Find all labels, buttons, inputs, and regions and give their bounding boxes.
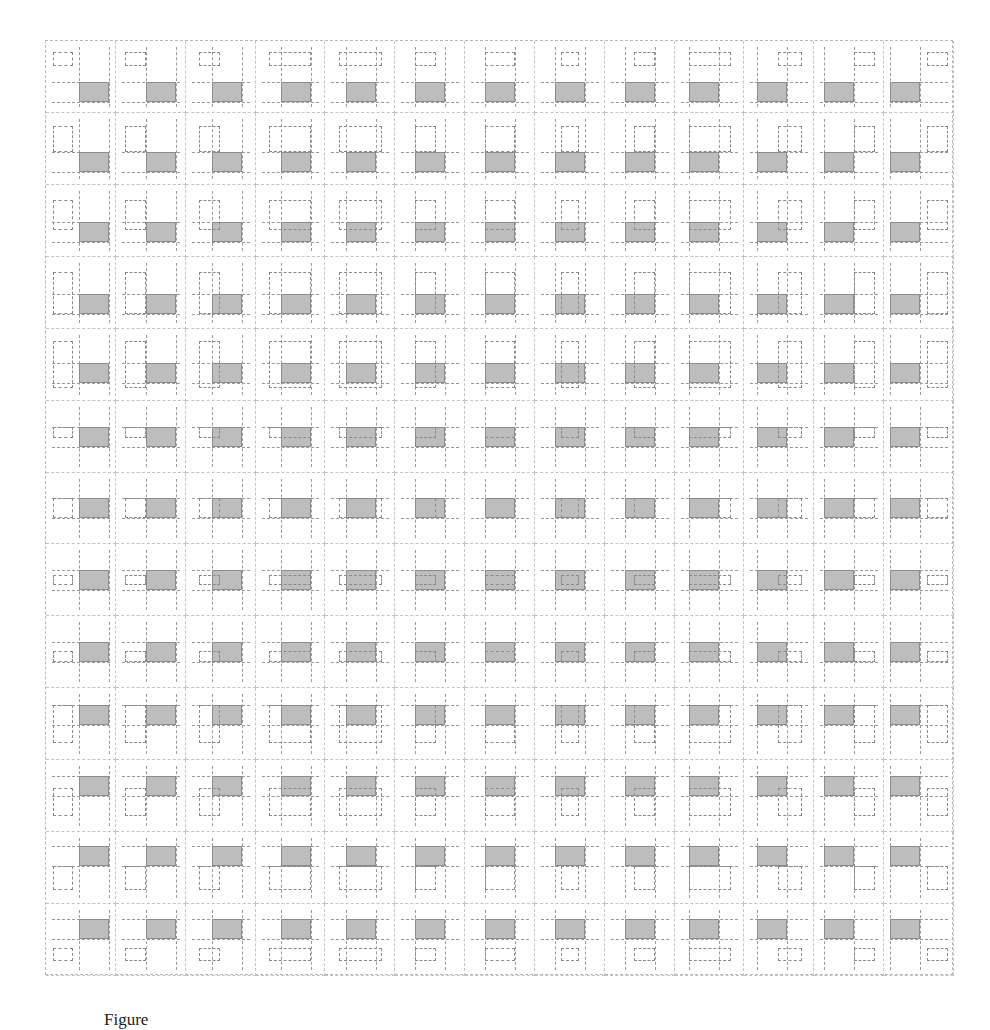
relation-cell-during-overlaps xyxy=(535,185,605,257)
reference-rectangle xyxy=(890,776,920,796)
moving-rectangle xyxy=(927,575,948,585)
relation-cell-overlaps-starts xyxy=(186,401,256,473)
relation-cell-meets-before xyxy=(116,41,186,113)
relation-cell-before-during xyxy=(46,544,116,616)
reference-rectangle xyxy=(890,427,920,447)
vertical-guide-line xyxy=(920,335,921,395)
moving-rectangle xyxy=(199,575,220,585)
moving-rectangle xyxy=(634,341,655,388)
horizontal-guide-line xyxy=(820,447,878,448)
relation-cell-during-contains xyxy=(535,329,605,401)
moving-rectangle xyxy=(125,866,146,890)
reference-rectangle xyxy=(146,642,176,662)
reference-rectangle xyxy=(212,919,242,939)
horizontal-guide-line xyxy=(401,518,459,519)
relation-cell-meets-during xyxy=(116,544,186,616)
relation-cell-overlapped-by-finishes xyxy=(744,616,814,688)
relation-cell-started-by-before xyxy=(675,41,745,113)
reference-rectangle xyxy=(146,705,176,725)
moving-rectangle xyxy=(485,200,515,230)
moving-rectangle xyxy=(778,866,802,890)
vertical-guide-line xyxy=(176,335,177,395)
horizontal-guide-line xyxy=(471,447,529,448)
horizontal-guide-line xyxy=(262,662,320,663)
relation-cell-equals-overlapped-by xyxy=(465,760,535,832)
reference-rectangle xyxy=(890,570,920,590)
moving-rectangle xyxy=(415,341,436,388)
relation-cell-equals-starts xyxy=(465,401,535,473)
horizontal-guide-line xyxy=(541,662,599,663)
reference-rectangle xyxy=(79,642,109,662)
moving-rectangle xyxy=(689,705,731,743)
horizontal-guide-line xyxy=(262,939,320,940)
relation-cell-starts-after xyxy=(395,904,465,976)
moving-rectangle xyxy=(53,948,73,961)
vertical-guide-line xyxy=(109,335,110,395)
reference-rectangle xyxy=(890,294,920,314)
vertical-guide-line xyxy=(920,479,921,539)
horizontal-guide-line xyxy=(611,939,669,940)
reference-rectangle xyxy=(212,846,242,866)
vertical-guide-line xyxy=(109,550,110,610)
relation-cell-equals-contains xyxy=(465,329,535,401)
moving-rectangle xyxy=(199,126,220,152)
moving-rectangle xyxy=(339,52,383,66)
moving-rectangle xyxy=(561,126,579,152)
relation-cell-before-met-by xyxy=(46,832,116,904)
relation-cell-meets-finished-by xyxy=(116,257,186,329)
moving-rectangle xyxy=(53,788,73,816)
horizontal-guide-line xyxy=(681,662,739,663)
vertical-guide-line xyxy=(655,47,656,107)
horizontal-guide-line xyxy=(681,939,739,940)
moving-rectangle xyxy=(561,272,579,314)
moving-rectangle xyxy=(689,126,731,152)
vertical-guide-line xyxy=(109,47,110,107)
relation-cell-finishes-finished-by xyxy=(605,257,675,329)
vertical-guide-line xyxy=(242,694,243,754)
relation-cell-met-by-meets xyxy=(814,113,884,185)
reference-rectangle xyxy=(757,82,787,102)
horizontal-guide-line xyxy=(122,939,180,940)
relation-cell-overlapped-by-finished-by xyxy=(744,257,814,329)
relation-cell-meets-after xyxy=(116,904,186,976)
horizontal-guide-line xyxy=(122,662,180,663)
moving-rectangle xyxy=(634,498,655,518)
relation-cell-overlaps-finished-by xyxy=(186,257,256,329)
moving-rectangle xyxy=(927,427,948,438)
moving-rectangle xyxy=(269,575,311,585)
moving-rectangle xyxy=(53,498,73,518)
vertical-guide-line xyxy=(920,550,921,610)
horizontal-guide-line xyxy=(331,172,389,173)
vertical-guide-line xyxy=(515,910,516,970)
relation-cell-after-after xyxy=(884,904,954,976)
horizontal-guide-line xyxy=(541,172,599,173)
moving-rectangle xyxy=(561,498,579,518)
relation-cell-before-overlapped-by xyxy=(46,760,116,832)
vertical-guide-line xyxy=(515,838,516,898)
vertical-guide-line xyxy=(585,838,586,898)
moving-rectangle xyxy=(415,575,436,585)
relation-cell-after-overlaps xyxy=(884,185,954,257)
vertical-guide-line xyxy=(242,838,243,898)
reference-rectangle xyxy=(79,427,109,447)
relation-cell-started-by-during xyxy=(675,544,745,616)
moving-rectangle xyxy=(269,651,311,662)
moving-rectangle xyxy=(53,427,73,438)
relation-cell-during-equals xyxy=(535,473,605,545)
horizontal-guide-line xyxy=(262,590,320,591)
relation-cell-overlaps-meets xyxy=(186,113,256,185)
moving-rectangle xyxy=(53,705,73,743)
relation-cell-starts-meets xyxy=(395,113,465,185)
vertical-guide-line xyxy=(515,407,516,467)
relation-cell-during-met-by xyxy=(535,832,605,904)
reference-rectangle xyxy=(415,152,445,172)
reference-rectangle xyxy=(757,919,787,939)
horizontal-guide-line xyxy=(192,242,250,243)
horizontal-guide-line xyxy=(401,939,459,940)
horizontal-guide-line xyxy=(750,314,808,315)
vertical-guide-line xyxy=(445,479,446,539)
moving-rectangle xyxy=(561,788,579,816)
moving-rectangle xyxy=(689,866,731,890)
relation-cell-before-started-by xyxy=(46,688,116,760)
relation-cell-met-by-after xyxy=(814,904,884,976)
